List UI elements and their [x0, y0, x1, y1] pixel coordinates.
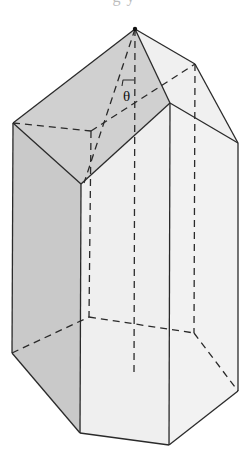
hexagonal-prism-crystal-diagram: θ — [0, 0, 248, 458]
apex-point — [133, 27, 137, 31]
theta-label: θ — [123, 88, 130, 104]
right-prism-face — [169, 103, 238, 445]
